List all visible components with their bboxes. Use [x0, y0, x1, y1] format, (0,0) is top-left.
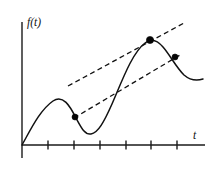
graph-canvas: f(t) t: [0, 0, 222, 183]
y-axis-label: f(t): [27, 16, 41, 29]
function-graph-figure: f(t) t: [0, 0, 222, 183]
tangent-line: [68, 23, 184, 86]
left-marker-dot: [72, 114, 78, 120]
peak-marker-dot: [146, 36, 153, 43]
right-marker-dot: [172, 54, 178, 60]
secant-line: [74, 55, 180, 118]
x-axis-label: t: [193, 129, 197, 141]
